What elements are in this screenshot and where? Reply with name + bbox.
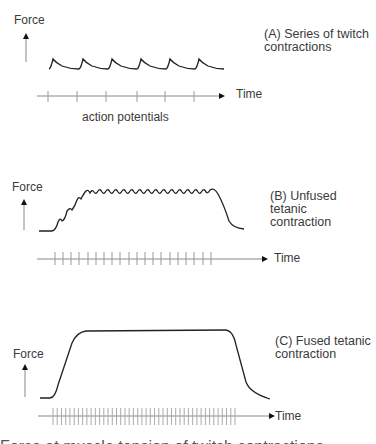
caption-b-line2: contraction xyxy=(270,216,376,229)
unfused-tetanus-curve-b xyxy=(39,189,244,231)
caption-b: (B) Unfused tetanic contraction xyxy=(270,190,376,229)
action-potentials-label: action potentials xyxy=(82,111,169,124)
force-label-c: Force xyxy=(13,348,44,361)
caption-c: (C) Fused tetanic contraction xyxy=(275,335,371,361)
caption-a-line2: contractions xyxy=(264,41,369,54)
panel-b xyxy=(24,189,265,265)
time-label-b: Time xyxy=(274,252,300,265)
force-label-a: Force xyxy=(14,14,45,27)
panel-a xyxy=(26,36,224,102)
fused-tetanus-curve-c xyxy=(40,330,270,399)
force-label-b: Force xyxy=(12,181,43,194)
panel-c xyxy=(25,330,272,425)
caption-c-line2: contraction xyxy=(275,348,371,361)
caption-a: (A) Series of twitch contractions xyxy=(264,28,369,54)
twitch-curve-a xyxy=(49,59,224,69)
time-label-c: Time xyxy=(275,410,301,423)
caption-b-line1: (B) Unfused tetanic xyxy=(270,190,376,216)
time-label-a: Time xyxy=(236,88,262,101)
truncated-footer-text: Force at muscle tension of twitch contra… xyxy=(0,438,324,444)
